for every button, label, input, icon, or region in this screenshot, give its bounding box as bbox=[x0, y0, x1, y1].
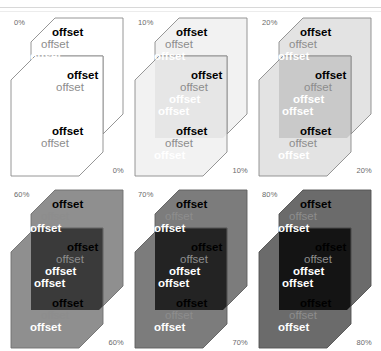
offset-label: offset bbox=[289, 210, 317, 222]
offset-label: offset bbox=[56, 253, 84, 265]
opacity-offset-figure: 0%0%offsetoffsetoffsetoffsetoffsetoffset… bbox=[0, 0, 381, 351]
offset-label: offset bbox=[169, 93, 200, 105]
offset-label: offset bbox=[30, 222, 61, 234]
opacity-panel: 0%0%offsetoffsetoffsetoffsetoffsetoffset… bbox=[5, 12, 132, 182]
offset-label: offset bbox=[154, 321, 185, 333]
opacity-label-bottom-right: 10% bbox=[232, 166, 248, 175]
opacity-panel: 10%10%offsetoffsetoffsetoffsetoffsetoffs… bbox=[129, 12, 256, 182]
offset-label: offset bbox=[41, 210, 69, 222]
opacity-panel: 70%70%offsetoffsetoffsetoffsetoffsetoffs… bbox=[129, 184, 256, 351]
opacity-label-top-left: 80% bbox=[262, 190, 278, 199]
offset-label: offset bbox=[278, 321, 309, 333]
offset-label: offset bbox=[304, 253, 332, 265]
offset-label: offset bbox=[300, 198, 331, 210]
opacity-label-bottom-right: 20% bbox=[356, 166, 372, 175]
offset-label: offset bbox=[154, 149, 185, 161]
offset-label: offset bbox=[169, 265, 200, 277]
offset-label: offset bbox=[165, 137, 193, 149]
offset-label: offset bbox=[30, 321, 61, 333]
offset-label: offset bbox=[315, 241, 346, 253]
offset-label: offset bbox=[300, 125, 331, 137]
offset-label: offset bbox=[154, 50, 185, 62]
offset-label: offset bbox=[30, 149, 61, 161]
page-rule-top bbox=[0, 7, 381, 8]
opacity-label-top-left: 70% bbox=[138, 190, 154, 199]
offset-label: offset bbox=[289, 137, 317, 149]
offset-label: offset bbox=[180, 253, 208, 265]
offset-label: offset bbox=[176, 297, 207, 309]
offset-label: offset bbox=[41, 309, 69, 321]
opacity-label-top-left: 20% bbox=[262, 18, 278, 27]
offset-label: offset bbox=[176, 198, 207, 210]
offset-label: offset bbox=[158, 105, 189, 117]
offset-label: offset bbox=[52, 26, 83, 38]
offset-label: offset bbox=[191, 69, 222, 81]
opacity-label-bottom-right: 0% bbox=[113, 166, 124, 175]
offset-label: offset bbox=[278, 149, 309, 161]
offset-label: offset bbox=[278, 50, 309, 62]
offset-label: offset bbox=[176, 26, 207, 38]
offset-label: offset bbox=[165, 38, 193, 50]
offset-label: offset bbox=[154, 222, 185, 234]
offset-label: offset bbox=[34, 277, 65, 289]
offset-label: offset bbox=[45, 93, 76, 105]
offset-label: offset bbox=[67, 69, 98, 81]
offset-label: offset bbox=[165, 309, 193, 321]
offset-label: offset bbox=[165, 210, 193, 222]
offset-label: offset bbox=[293, 93, 324, 105]
offset-label: offset bbox=[41, 38, 69, 50]
opacity-label-top-left: 0% bbox=[14, 18, 25, 27]
offset-label: offset bbox=[41, 137, 69, 149]
opacity-label-bottom-right: 60% bbox=[108, 338, 124, 347]
offset-label: offset bbox=[282, 277, 313, 289]
offset-label: offset bbox=[315, 69, 346, 81]
opacity-label-bottom-right: 80% bbox=[356, 338, 372, 347]
offset-label: offset bbox=[300, 297, 331, 309]
offset-label: offset bbox=[176, 125, 207, 137]
offset-label: offset bbox=[45, 265, 76, 277]
offset-label: offset bbox=[293, 265, 324, 277]
opacity-label-bottom-right: 70% bbox=[232, 338, 248, 347]
opacity-panel: 20%20%offsetoffsetoffsetoffsetoffsetoffs… bbox=[253, 12, 380, 182]
offset-label: offset bbox=[34, 105, 65, 117]
opacity-label-top-left: 10% bbox=[138, 18, 154, 27]
offset-label: offset bbox=[158, 277, 189, 289]
opacity-label-top-left: 60% bbox=[14, 190, 30, 199]
offset-label: offset bbox=[67, 241, 98, 253]
offset-label: offset bbox=[191, 241, 222, 253]
offset-label: offset bbox=[180, 81, 208, 93]
opacity-panel: 60%60%offsetoffsetoffsetoffsetoffsetoffs… bbox=[5, 184, 132, 351]
offset-label: offset bbox=[278, 222, 309, 234]
offset-label: offset bbox=[282, 105, 313, 117]
offset-label: offset bbox=[52, 198, 83, 210]
offset-label: offset bbox=[56, 81, 84, 93]
offset-label: offset bbox=[300, 26, 331, 38]
offset-label: offset bbox=[52, 125, 83, 137]
offset-label: offset bbox=[289, 38, 317, 50]
opacity-panel: 80%80%offsetoffsetoffsetoffsetoffsetoffs… bbox=[253, 184, 380, 351]
panel-grid: 0%0%offsetoffsetoffsetoffsetoffsetoffset… bbox=[0, 12, 381, 351]
offset-label: offset bbox=[30, 50, 61, 62]
offset-label: offset bbox=[52, 297, 83, 309]
offset-label: offset bbox=[304, 81, 332, 93]
offset-label: offset bbox=[289, 309, 317, 321]
